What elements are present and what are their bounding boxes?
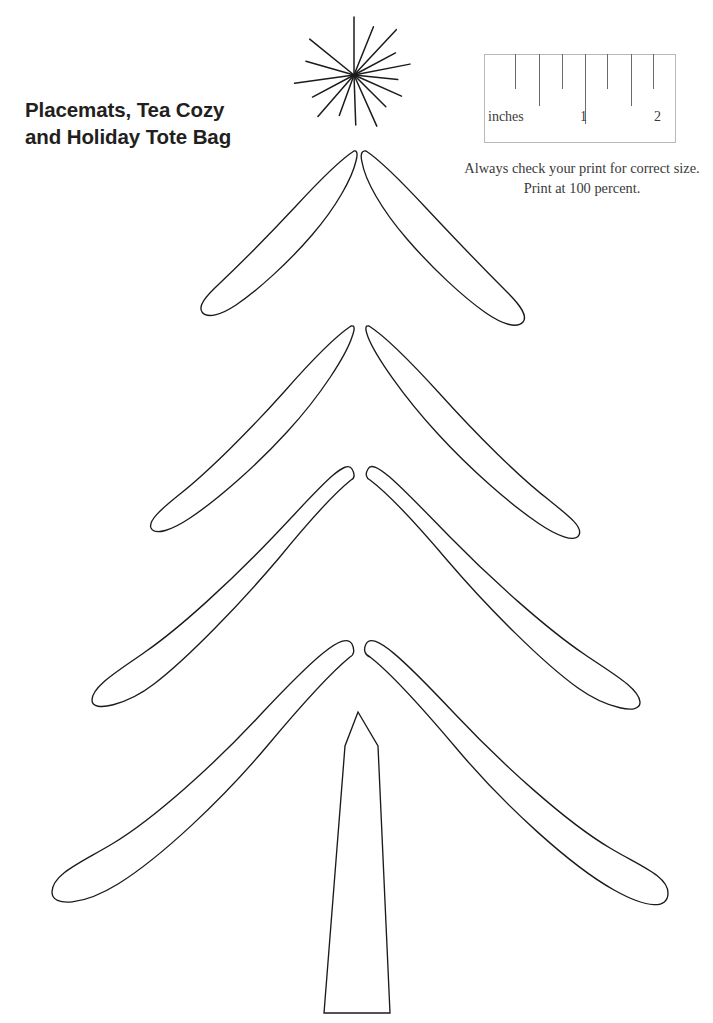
- ruler-labels: inches12: [484, 54, 676, 143]
- template-page: Placemats, Tea Cozy and Holiday Tote Bag…: [0, 0, 713, 1023]
- star-ray-10: [354, 75, 356, 125]
- print-instructions-line-2: Print at 100 percent.: [453, 178, 711, 198]
- branch-tier4-left: [52, 641, 354, 903]
- print-instructions-line-1: Always check your print for correct size…: [453, 158, 711, 178]
- star-ray-9: [354, 75, 377, 126]
- branch-tier3-right: [366, 467, 640, 710]
- page-title-line-2: and Holiday Tote Bag: [25, 123, 325, 150]
- tree-svg: [0, 0, 713, 1023]
- branch-tier3-left: [92, 467, 354, 707]
- branch-tier1-left: [201, 151, 357, 316]
- tree-trunk: [324, 712, 390, 1013]
- star-ray-2: [354, 27, 373, 75]
- ruler-label-inches: inches: [488, 109, 524, 125]
- page-title-line-1: Placemats, Tea Cozy: [25, 96, 325, 123]
- ruler-label-1: 1: [580, 109, 587, 125]
- print-scale-ruler: inches12: [484, 54, 676, 143]
- trunk-outline: [324, 712, 390, 1013]
- branch-tier2-left: [151, 326, 355, 532]
- branch-tier2-right: [366, 326, 580, 539]
- tree-artwork: [0, 0, 713, 1023]
- tree-branches-group: [52, 151, 668, 905]
- ruler-label-2: 2: [654, 109, 661, 125]
- star-ray-16: [310, 39, 354, 75]
- page-title: Placemats, Tea Cozy and Holiday Tote Bag: [25, 96, 325, 151]
- print-instructions: Always check your print for correct size…: [453, 158, 711, 199]
- star-ray-15: [306, 61, 354, 75]
- star-ray-8: [354, 75, 386, 107]
